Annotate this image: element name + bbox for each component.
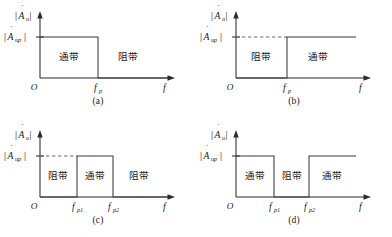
level-label: | ˙ A up |: [4, 24, 26, 44]
x-axis-label: f: [359, 82, 363, 93]
band-label-stop-low: 阻带: [48, 170, 68, 181]
y-axis-label: | ˙ A u |: [211, 122, 228, 142]
origin-label: O: [31, 82, 38, 92]
tick-label-fp-base: f: [94, 82, 98, 93]
tick-label-fp1-sub: p1: [76, 206, 83, 213]
panel-b-high-pass: | ˙ A u | | ˙ A up | O f f p 阻带 通带 (b): [196, 0, 392, 118]
band-label-stop: 阻带: [251, 51, 271, 62]
x-axis-arrow-icon: [364, 75, 372, 80]
svg-text:|: |: [226, 129, 228, 140]
level-label-sub: up: [211, 36, 217, 43]
panel-a-low-pass: | ˙ A u | | ˙ A up | O f f p: [0, 0, 196, 118]
band-label-pass: 通带: [308, 51, 328, 62]
y-axis-label: | ˙ A u |: [15, 122, 32, 142]
level-label-base: A: [203, 31, 210, 42]
y-axis-label-base: A: [18, 10, 25, 21]
y-axis-label-base: A: [214, 129, 221, 140]
tick-label-fp1-sub: p1: [273, 206, 280, 213]
band-label-pass: 通带: [85, 170, 105, 181]
panel-b-caption: (b): [196, 96, 392, 106]
tick-label-fp: f p: [94, 82, 102, 94]
y-axis-arrow-icon: [233, 130, 238, 138]
band-label-stop-high: 阻带: [129, 170, 149, 181]
x-axis-arrow-icon: [168, 194, 176, 199]
svg-text:|: |: [15, 10, 17, 21]
band-label-pass: 通带: [59, 51, 79, 62]
svg-text:|: |: [220, 31, 222, 42]
svg-text:|: |: [30, 10, 32, 21]
svg-text:|: |: [200, 31, 202, 42]
svg-text:|: |: [15, 129, 17, 140]
svg-text:|: |: [4, 150, 6, 161]
tick-label-fp2-base: f: [304, 201, 308, 212]
y-axis-arrow-icon: [37, 130, 42, 138]
level-label-sub: up: [15, 36, 21, 43]
tick-label-fp1: f p1: [72, 201, 83, 213]
band-label-pass-low: 通带: [245, 170, 265, 181]
y-axis-label: | ˙ A u |: [211, 3, 228, 23]
level-label: | ˙ A up |: [200, 143, 222, 163]
panel-c-band-pass: | ˙ A u | | ˙ A up | O f f p1 f p2: [0, 119, 196, 237]
x-axis-label: f: [163, 201, 167, 212]
tick-label-fp1-base: f: [72, 201, 76, 212]
level-label-base: A: [203, 150, 210, 161]
panel-a-caption: (a): [0, 96, 196, 106]
tick-label-fp: f p: [283, 82, 291, 94]
band-label-stop: 阻带: [118, 51, 138, 62]
band-label-pass-high: 通带: [322, 170, 342, 181]
tick-label-fp1-base: f: [269, 201, 273, 212]
level-label-sub: up: [211, 155, 217, 162]
svg-text:|: |: [211, 129, 213, 140]
x-axis-label: f: [163, 82, 167, 93]
tick-label-fp2: f p2: [304, 201, 315, 213]
tick-label-fp1: f p1: [269, 201, 280, 213]
tick-label-fp2-sub: p2: [112, 206, 119, 213]
y-axis-label-base: A: [18, 129, 25, 140]
tick-label-fp2-base: f: [108, 201, 112, 212]
y-axis-label: | ˙ A u |: [15, 3, 32, 23]
level-label-base: A: [7, 150, 14, 161]
y-axis-arrow-icon: [233, 11, 238, 19]
svg-text:|: |: [24, 31, 26, 42]
level-label-base: A: [7, 31, 14, 42]
origin-label: O: [31, 201, 38, 211]
x-axis-label: f: [359, 201, 363, 212]
svg-text:|: |: [211, 10, 213, 21]
origin-label: O: [227, 82, 234, 92]
level-label: | ˙ A up |: [200, 24, 222, 44]
tick-label-fp-base: f: [283, 82, 287, 93]
tick-label-fp2-sub: p2: [308, 206, 315, 213]
svg-text:|: |: [200, 150, 202, 161]
svg-text:|: |: [220, 150, 222, 161]
y-axis-arrow-icon: [37, 11, 42, 19]
band-label-stop: 阻带: [282, 170, 302, 181]
filter-response-figure: | ˙ A u | | ˙ A up | O f f p: [0, 0, 392, 237]
tick-label-fp2: f p2: [108, 201, 119, 213]
svg-text:|: |: [226, 10, 228, 21]
tick-label-fp-sub: p: [287, 87, 291, 94]
tick-label-fp-sub: p: [98, 87, 102, 94]
y-axis-label-base: A: [214, 10, 221, 21]
panel-d-caption: (d): [196, 215, 392, 225]
svg-text:|: |: [4, 31, 6, 42]
level-label: | ˙ A up |: [4, 143, 26, 163]
svg-text:|: |: [30, 129, 32, 140]
svg-text:|: |: [24, 150, 26, 161]
x-axis-arrow-icon: [364, 194, 372, 199]
origin-label: O: [227, 201, 234, 211]
panel-d-band-stop: | ˙ A u | | ˙ A up | O f f p1 f p2: [196, 119, 392, 237]
level-label-sub: up: [15, 155, 21, 162]
x-axis-arrow-icon: [168, 75, 176, 80]
panel-c-caption: (c): [0, 215, 196, 225]
